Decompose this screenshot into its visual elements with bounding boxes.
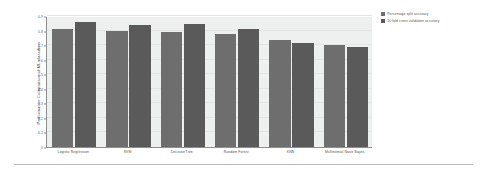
legend-item[interactable]: Percentage split accuracy bbox=[381, 12, 481, 16]
bar bbox=[324, 45, 346, 147]
legend-swatch-icon bbox=[381, 19, 385, 23]
bar bbox=[129, 25, 151, 147]
y-axis-tick-label: 0.8 bbox=[38, 30, 43, 34]
x-axis-tick-label: Random Forest bbox=[224, 150, 249, 154]
bar-group bbox=[264, 17, 318, 147]
bar bbox=[52, 29, 74, 147]
bar bbox=[215, 34, 237, 147]
y-axis-tick-label: 0.6 bbox=[38, 59, 43, 63]
y-axis-tick-label: 0.5 bbox=[38, 73, 43, 77]
x-axis-tick-label: SVM bbox=[124, 150, 132, 154]
bar-group bbox=[319, 17, 373, 147]
y-axis: 00.10.20.30.40.50.60.70.80.9 bbox=[0, 17, 46, 149]
x-axis-tick-label: Multinomial Naive Bayes bbox=[325, 150, 364, 154]
y-axis-tick-label: 0.4 bbox=[38, 88, 43, 92]
gridline bbox=[47, 15, 372, 16]
chart-figure: Performance Comparison of ML classifiers… bbox=[0, 0, 487, 175]
x-axis: Logistic RegressionSVMDecision TreeRando… bbox=[46, 150, 372, 162]
chart-legend: Percentage split accuracy10 fold cross v… bbox=[381, 12, 481, 26]
y-axis-tick-label: 0.7 bbox=[38, 44, 43, 48]
legend-item[interactable]: 10 fold cross validation accuracy bbox=[381, 19, 481, 23]
legend-label: Percentage split accuracy bbox=[387, 12, 428, 16]
bar bbox=[238, 29, 260, 147]
plot-area bbox=[46, 17, 372, 148]
x-axis-tick-label: Decision Tree bbox=[171, 150, 193, 154]
bar-group bbox=[156, 17, 210, 147]
horizontal-rule bbox=[14, 164, 473, 165]
bar bbox=[75, 22, 97, 147]
bar-group bbox=[210, 17, 264, 147]
x-axis-tick-label: KNN bbox=[287, 150, 294, 154]
legend-label: 10 fold cross validation accuracy bbox=[387, 19, 439, 23]
y-axis-tick-label: 0 bbox=[41, 146, 43, 150]
bar bbox=[292, 43, 314, 147]
y-axis-tick-label: 0.1 bbox=[38, 131, 43, 135]
bar bbox=[184, 24, 206, 147]
bar-group bbox=[47, 17, 101, 147]
y-axis-tick-label: 0.9 bbox=[38, 15, 43, 19]
bar bbox=[106, 31, 128, 147]
bar bbox=[347, 47, 369, 147]
x-axis-tick-label: Logistic Regression bbox=[57, 150, 89, 154]
y-axis-tick-label: 0.2 bbox=[38, 117, 43, 121]
bar bbox=[269, 40, 291, 147]
bar bbox=[161, 32, 183, 147]
y-axis-tick-label: 0.3 bbox=[38, 102, 43, 106]
legend-swatch-icon bbox=[381, 12, 385, 16]
bar-group bbox=[101, 17, 155, 147]
